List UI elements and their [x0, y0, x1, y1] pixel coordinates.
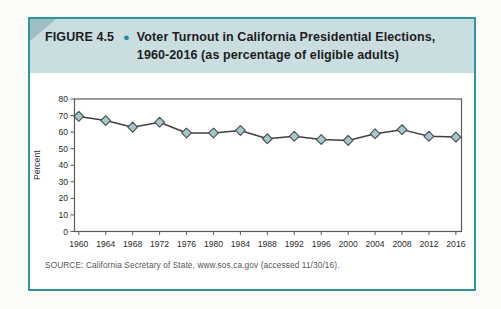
- y-tick-label: 70: [58, 111, 68, 121]
- x-tick-label-2016: 2016: [446, 239, 465, 249]
- x-tick-label-1984: 1984: [231, 239, 250, 249]
- x-tick-label-2000: 2000: [339, 239, 358, 249]
- x-tick-label-1996: 1996: [312, 239, 331, 249]
- figure-title-line1: Voter Turnout in California Presidential…: [137, 28, 435, 46]
- y-tick-label: 10: [58, 210, 68, 220]
- x-tick-label-2004: 2004: [366, 239, 385, 249]
- y-tick-label: 50: [58, 144, 68, 154]
- y-tick-label: 30: [58, 177, 68, 187]
- figure-header: FIGURE 4.5 ● Voter Turnout in California…: [30, 19, 474, 73]
- figure-box: FIGURE 4.5 ● Voter Turnout in California…: [28, 17, 476, 291]
- x-tick-label-2012: 2012: [419, 239, 438, 249]
- x-tick-label-1972: 1972: [150, 239, 169, 249]
- x-tick-label-1988: 1988: [258, 239, 277, 249]
- turnout-line-chart: 01020304050607080Percent1960196419681972…: [30, 73, 474, 270]
- y-tick-label: 40: [58, 160, 68, 170]
- x-tick-label-1980: 1980: [204, 239, 223, 249]
- plot-area: [75, 99, 462, 232]
- figure-title: FIGURE 4.5 ● Voter Turnout in California…: [45, 28, 435, 64]
- x-tick-label-1992: 1992: [285, 239, 304, 249]
- y-tick-label: 20: [58, 193, 68, 203]
- x-tick-label-1976: 1976: [177, 239, 196, 249]
- x-tick-label-2008: 2008: [392, 239, 411, 249]
- figure-title-text: Voter Turnout in California Presidential…: [137, 28, 435, 64]
- y-tick-label: 0: [63, 227, 68, 237]
- y-tick-label: 60: [58, 127, 68, 137]
- x-tick-label-1964: 1964: [96, 239, 115, 249]
- x-tick-label-1960: 1960: [69, 239, 88, 249]
- bullet-icon: ●: [123, 28, 130, 46]
- figure-number-label: FIGURE 4.5: [45, 28, 114, 46]
- y-tick-label: 80: [58, 94, 68, 104]
- x-tick-label-1968: 1968: [123, 239, 142, 249]
- figure-title-line2: 1960-2016 (as percentage of eligible adu…: [137, 46, 435, 64]
- page: FIGURE 4.5 ● Voter Turnout in California…: [0, 0, 501, 309]
- source-note: SOURCE: California Secretary of State, w…: [45, 260, 340, 270]
- y-axis-title: Percent: [32, 150, 42, 180]
